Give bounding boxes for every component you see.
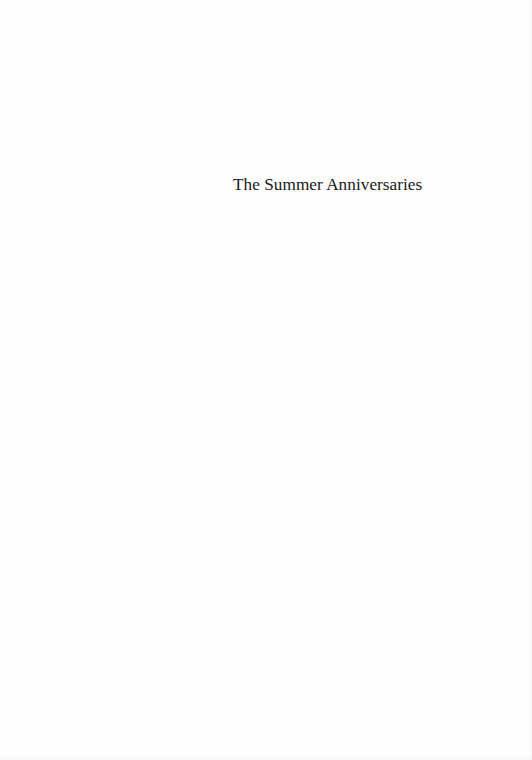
- half-title: The Summer Anniversaries: [233, 174, 422, 196]
- page-edge-bottom: [0, 754, 532, 760]
- book-page: The Summer Anniversaries: [0, 0, 532, 760]
